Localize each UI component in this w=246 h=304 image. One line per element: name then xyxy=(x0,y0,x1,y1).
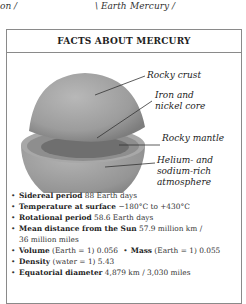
bullet-icon: • xyxy=(11,256,19,267)
facts-box: FACTS ABOUT MERCURY xyxy=(6,29,242,304)
box-title: FACTS ABOUT MERCURY xyxy=(7,30,241,53)
bullet-icon: • xyxy=(120,246,130,255)
facts-list: •Sidereal period 88 Earth days •Temperat… xyxy=(11,190,239,278)
bullet-icon: • xyxy=(11,245,19,256)
fact-mean-distance: •Mean distance from the Sun 57.9 million… xyxy=(11,223,239,234)
caption-fragment: on / xyxy=(0,1,17,11)
label-rocky-crust: Rocky crust xyxy=(147,70,201,80)
fact-density: •Density (water = 1) 5.43 xyxy=(11,256,239,267)
fact-sidereal-period: •Sidereal period 88 Earth days xyxy=(11,190,239,201)
bullet-icon: • xyxy=(11,212,19,223)
fact-rotational-period: •Rotational period 58.6 Earth days xyxy=(11,212,239,223)
label-rocky-mantle: Rocky mantle xyxy=(162,133,224,143)
label-atm-line1: Helium- and xyxy=(157,155,213,165)
fact-volume-mass: •Volume (Earth = 1) 0.056 •Mass (Earth =… xyxy=(11,245,239,256)
fact-mean-distance-cont: 36 million miles xyxy=(11,234,239,245)
label-core-line2: nickel core xyxy=(155,101,205,111)
mercury-cutaway-illustration: Rocky crust Iron and nickel core Rocky m… xyxy=(7,53,241,193)
label-core-line1: Iron and xyxy=(155,90,194,100)
bullet-icon: • xyxy=(11,190,19,201)
bullet-icon: • xyxy=(11,267,19,278)
label-atm-line3: atmosphere xyxy=(157,177,211,187)
fact-equatorial-diameter: •Equatorial diameter 4,879 km / 3,030 mi… xyxy=(11,267,239,278)
caption-mercury: Mercury / xyxy=(130,1,175,11)
caption-earth: \ Earth xyxy=(95,1,127,11)
top-caption: on / \ Earth Mercury / xyxy=(0,0,246,14)
bullet-icon: • xyxy=(11,201,19,212)
label-atm-line2: sodium-rich xyxy=(157,166,211,176)
fact-temperature: •Temperature at surface −180°C to +430°C xyxy=(11,201,239,212)
bullet-icon: • xyxy=(11,223,19,234)
